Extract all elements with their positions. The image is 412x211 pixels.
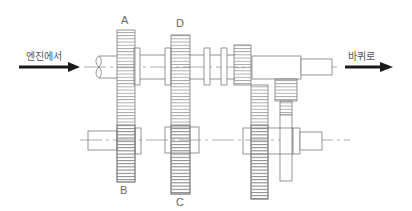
gear-label-c: C bbox=[176, 197, 184, 208]
output-label: 바퀴로 bbox=[348, 52, 375, 62]
output-main-gear bbox=[234, 45, 251, 85]
output-arrow-icon bbox=[345, 62, 393, 72]
gear-label-b: B bbox=[120, 185, 127, 196]
gear-train-diagram bbox=[0, 0, 412, 211]
input-shaft bbox=[96, 56, 117, 78]
input-label: 엔진에서 bbox=[26, 52, 62, 62]
gear-label-a: A bbox=[121, 15, 128, 26]
gear-label-d: D bbox=[176, 18, 184, 29]
input-arrow-icon bbox=[19, 62, 80, 72]
main-shaft bbox=[134, 48, 332, 85]
